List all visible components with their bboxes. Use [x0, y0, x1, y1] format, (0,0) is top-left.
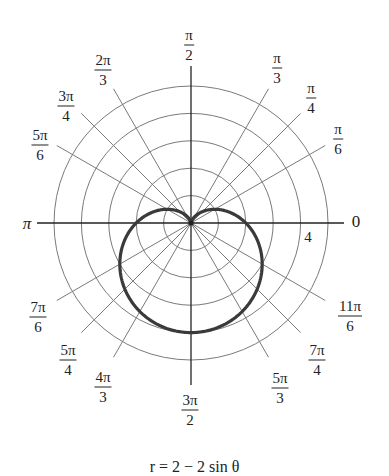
angle-label-5pi-over-6: 5π 6	[31, 128, 48, 163]
denominator: 3	[99, 71, 107, 88]
numerator: 2π	[94, 53, 111, 71]
numerator: π	[333, 122, 343, 140]
angle-label-pi-over-2: π 2	[184, 28, 194, 63]
angle-label-5pi-over-4: 5π 4	[59, 343, 76, 378]
chart-caption: r = 2 − 2 sin θ	[0, 458, 389, 476]
numerator: 3π	[181, 393, 198, 411]
denominator: 3	[99, 388, 107, 405]
denominator: 2	[185, 46, 193, 63]
denominator: 4	[62, 107, 70, 124]
origin-point	[189, 221, 194, 226]
grid-ray	[191, 113, 301, 223]
angle-label-zero: 0	[352, 212, 361, 232]
angle-label-7pi-over-6: 7π 6	[29, 300, 46, 335]
numerator: π	[272, 51, 282, 69]
angle-label-pi-over-4: π 4	[306, 81, 316, 116]
numerator: 7π	[29, 300, 46, 318]
numerator: 5π	[271, 371, 288, 389]
angle-label-11pi-over-6: 11π 6	[338, 299, 362, 334]
angle-label-4pi-over-3: 4π 3	[94, 370, 111, 405]
angle-label-2pi-over-3: 2π 3	[94, 53, 111, 88]
grid-ray	[191, 89, 269, 223]
angle-label-pi: π	[23, 214, 32, 234]
angle-label-3pi-over-2: 3π 2	[181, 393, 198, 428]
numerator: π	[184, 28, 194, 46]
denominator: 6	[346, 317, 354, 334]
denominator: 4	[64, 361, 72, 378]
angle-label-7pi-over-4: 7π 4	[308, 343, 325, 378]
numerator: 4π	[94, 370, 111, 388]
angle-label-5pi-over-3: 5π 3	[271, 371, 288, 406]
angle-label-pi-over-6: π 6	[333, 122, 343, 157]
denominator: 6	[36, 146, 44, 163]
denominator: 2	[186, 411, 194, 428]
denominator: 6	[34, 318, 42, 335]
grid-ray	[81, 113, 191, 223]
numerator: 5π	[59, 343, 76, 361]
grid-ray	[114, 89, 192, 223]
grid-ray	[191, 223, 301, 333]
denominator: 3	[276, 389, 284, 406]
denominator: 3	[273, 69, 281, 86]
denominator: 6	[334, 140, 342, 157]
grid-ray	[191, 146, 325, 224]
numerator: 7π	[308, 343, 325, 361]
denominator: 4	[313, 361, 321, 378]
numerator: π	[306, 81, 316, 99]
radius-label-4: 4	[304, 229, 312, 246]
angle-label-pi-over-3: π 3	[272, 51, 282, 86]
numerator: 5π	[31, 128, 48, 146]
polar-axes	[37, 66, 344, 385]
grid-ray	[81, 223, 191, 333]
numerator: 11π	[338, 299, 362, 317]
grid-ray	[57, 146, 191, 224]
angle-label-3pi-over-4: 3π 4	[57, 89, 74, 124]
numerator: 3π	[57, 89, 74, 107]
denominator: 4	[307, 99, 315, 116]
